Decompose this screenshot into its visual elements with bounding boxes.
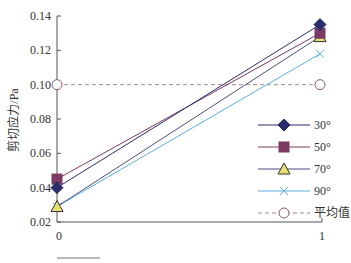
legend-label: 平均值	[314, 205, 350, 220]
legend-label: 70°	[314, 162, 331, 176]
shear-stress-chart: 剪切应力/Pa 0.020.040.060.080.100.120.14 01 …	[0, 0, 351, 263]
y-axis-label: 剪切应力/Pa	[6, 88, 21, 152]
y-tick-label: 0.14	[30, 9, 51, 23]
legend-label: 50°	[314, 140, 331, 154]
x-ticks: 01	[56, 229, 325, 243]
y-tick-label: 0.06	[30, 146, 51, 160]
y-ticks: 0.020.040.060.080.100.120.14	[30, 9, 61, 229]
legend-label: 30°	[314, 118, 331, 132]
legend-item: 30°	[258, 118, 331, 132]
legend-item: 70°	[258, 162, 331, 176]
legend-item: 50°	[258, 140, 331, 154]
legend-item: 90°	[258, 184, 331, 198]
legend-label: 90°	[314, 184, 331, 198]
x-tick-label: 1	[319, 229, 325, 243]
legend-item: 平均值	[258, 205, 350, 220]
y-tick-label: 0.02	[30, 215, 51, 229]
y-tick-label: 0.04	[30, 181, 51, 195]
legend: 30°50°70°90°平均值	[258, 118, 350, 220]
x-tick-label: 0	[56, 229, 62, 243]
series-lines	[51, 19, 326, 212]
y-tick-label: 0.08	[30, 112, 51, 126]
y-tick-label: 0.10	[30, 78, 51, 92]
series-4	[52, 80, 325, 90]
y-tick-label: 0.12	[30, 43, 51, 57]
